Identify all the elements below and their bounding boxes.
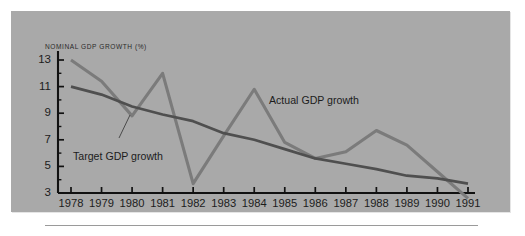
y-axis-tick-label: 3 <box>29 187 51 199</box>
x-axis-tick-label: 1984 <box>237 198 271 209</box>
x-axis-tick-label: 1989 <box>390 198 424 209</box>
x-axis-tick-label: 1985 <box>268 198 302 209</box>
x-axis-tick-label: 1979 <box>85 198 119 209</box>
bottom-divider <box>45 225 478 226</box>
x-axis-tick-label: 1982 <box>176 198 210 209</box>
x-axis-tick-label: 1981 <box>146 198 180 209</box>
y-axis-tick-label: 7 <box>29 134 51 146</box>
y-axis-tick-label: 13 <box>29 54 51 66</box>
y-axis-tick-label: 9 <box>29 107 51 119</box>
y-axis-tick-label: 11 <box>29 81 51 93</box>
x-axis-tick-label: 1978 <box>54 198 88 209</box>
chart-panel: NOMINAL GDP GROWTH (%) Actual GDP growth… <box>11 11 510 212</box>
x-axis-tick-label: 1988 <box>359 198 393 209</box>
x-axis-tick-label: 1991 <box>451 198 485 209</box>
chart-title: NOMINAL GDP GROWTH (%) <box>45 43 147 50</box>
chart-plot-area <box>11 11 510 212</box>
x-axis-tick-label: 1990 <box>420 198 454 209</box>
x-axis-tick-label: 1980 <box>115 198 149 209</box>
series-label-target: Target GDP growth <box>73 150 163 162</box>
x-axis-tick-label: 1983 <box>207 198 241 209</box>
x-axis-tick-label: 1986 <box>298 198 332 209</box>
chart-figure: NOMINAL GDP GROWTH (%) Actual GDP growth… <box>0 0 525 236</box>
x-axis-tick-label: 1987 <box>329 198 363 209</box>
y-axis-tick-label: 5 <box>29 160 51 172</box>
chart-svg <box>11 11 510 212</box>
series-label-actual: Actual GDP growth <box>269 94 359 106</box>
